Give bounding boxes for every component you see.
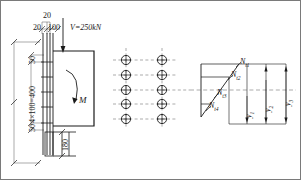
- force-label-nt2: Nt2: [231, 71, 241, 81]
- moment-label: M: [79, 96, 87, 105]
- drawing-canvas: [0, 0, 302, 181]
- distance-label-y3: y3: [284, 100, 294, 106]
- force-label-nt1: Nt1: [240, 58, 250, 68]
- load-arrowhead: [61, 46, 66, 53]
- bolt-layout-view: [113, 48, 190, 128]
- left-dim-bottom-label: 50: [29, 124, 37, 132]
- left-dim-middle-label: 4×100=400: [29, 86, 37, 123]
- bolt-circles: [121, 55, 166, 123]
- plate-thickness-label: 180: [62, 139, 70, 151]
- distance-label-y2: y2: [264, 106, 274, 112]
- elevation-view: [11, 18, 94, 166]
- bolt-crosshairs: [121, 55, 166, 123]
- force-label-nt4: Nt4: [209, 102, 219, 112]
- moment-arc: [66, 70, 77, 100]
- top-dim-upper-label: 20: [43, 12, 51, 20]
- force-diagram-view: [190, 62, 296, 124]
- beam-outline: [53, 51, 94, 126]
- left-dim-top-label: 50: [29, 56, 37, 64]
- top-dim-left-label: 20: [33, 24, 41, 32]
- force-label-nt3: Nt3: [217, 89, 227, 99]
- shear-load-label: V=250kN: [70, 24, 101, 32]
- bolt-row-centerlines: [113, 60, 190, 119]
- distance-label-y1: y1: [245, 112, 255, 118]
- end-plate: [43, 33, 53, 155]
- top-dim-right-label: 100: [48, 24, 60, 32]
